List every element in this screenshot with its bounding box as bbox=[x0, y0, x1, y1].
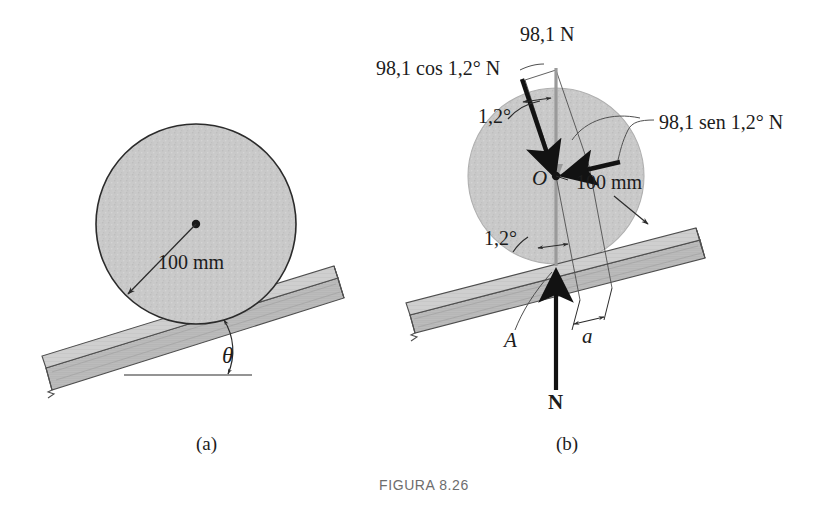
lower-angle-label: 1,2° bbox=[484, 228, 517, 248]
panel-a-radius-label: 100 mm bbox=[158, 252, 224, 272]
moment-arm-label: a bbox=[582, 326, 593, 347]
panel-b-radius-label: 100 mm bbox=[576, 172, 642, 192]
panel-a-caption: (a) bbox=[196, 434, 217, 453]
upper-angle-label: 1,2° bbox=[478, 106, 511, 126]
disk-center-label: O bbox=[532, 168, 547, 189]
panel-b-caption: (b) bbox=[556, 434, 578, 453]
figure-caption: FIGURA 8.26 bbox=[379, 478, 469, 492]
cos-component-label: 98,1 cos 1,2° N bbox=[376, 58, 500, 78]
panel-a-theta-label: θ bbox=[222, 344, 233, 367]
arm-dimension-arrow-pair bbox=[574, 317, 604, 324]
normal-force-label: N bbox=[548, 392, 563, 413]
cos-label-leader bbox=[520, 64, 544, 70]
arm-extension-line-left bbox=[572, 300, 580, 330]
arm-extension-line-right bbox=[604, 288, 612, 320]
sin-component-label: 98,1 sen 1,2° N bbox=[659, 112, 783, 132]
parallelogram-top-edge bbox=[525, 70, 556, 80]
figure-8-26: 100 mm θ (a) 98,1 N 98,1 cos 1,2° N 98,1… bbox=[0, 0, 829, 508]
weight-force-label: 98,1 N bbox=[520, 24, 574, 44]
contact-point-label: A bbox=[504, 330, 517, 351]
